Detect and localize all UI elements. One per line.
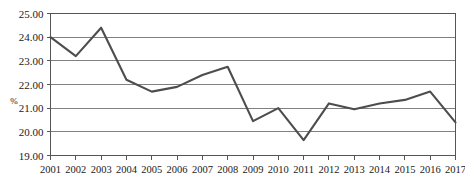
x-tick-label: 2001 — [40, 164, 61, 175]
x-tick-label: 2011 — [293, 164, 314, 175]
x-tick-label: 2003 — [91, 164, 112, 175]
x-tick-label: 2016 — [420, 164, 441, 175]
x-tick-label: 2005 — [141, 164, 162, 175]
y-tick-label: 19.00 — [19, 150, 44, 162]
x-tick-label: 2012 — [318, 164, 339, 175]
x-tick-label: 2002 — [65, 164, 86, 175]
y-tick-label: 20.00 — [19, 126, 44, 138]
x-tick-label: 2015 — [394, 164, 415, 175]
y-tick-label: 25.00 — [19, 8, 44, 20]
x-tick-label: 2008 — [217, 164, 238, 175]
x-tick-label: 2017 — [445, 164, 465, 175]
y-tick-label: 22.00 — [19, 79, 44, 91]
y-tick-label: 23.00 — [19, 55, 44, 67]
plot-background — [0, 0, 465, 182]
x-tick-label: 2004 — [116, 164, 138, 175]
x-tick-label: 2009 — [243, 164, 264, 175]
y-tick-label: 24.00 — [19, 31, 44, 43]
x-tick-label: 2014 — [369, 164, 391, 175]
y-tick-label: 21.00 — [19, 102, 44, 114]
x-tick-label: 2006 — [167, 164, 188, 175]
x-tick-label: 2013 — [344, 164, 365, 175]
x-axis-tick-labels: 2001200220032004200520062007200820092010… — [40, 164, 465, 175]
chart-page: 25.0024.0023.0022.0021.0020.0019.00 2001… — [0, 0, 465, 182]
x-tick-label: 2007 — [192, 164, 213, 175]
line-chart: 25.0024.0023.0022.0021.0020.0019.00 2001… — [0, 0, 465, 182]
y-axis-title: % — [10, 96, 18, 106]
x-tick-label: 2010 — [268, 164, 289, 175]
